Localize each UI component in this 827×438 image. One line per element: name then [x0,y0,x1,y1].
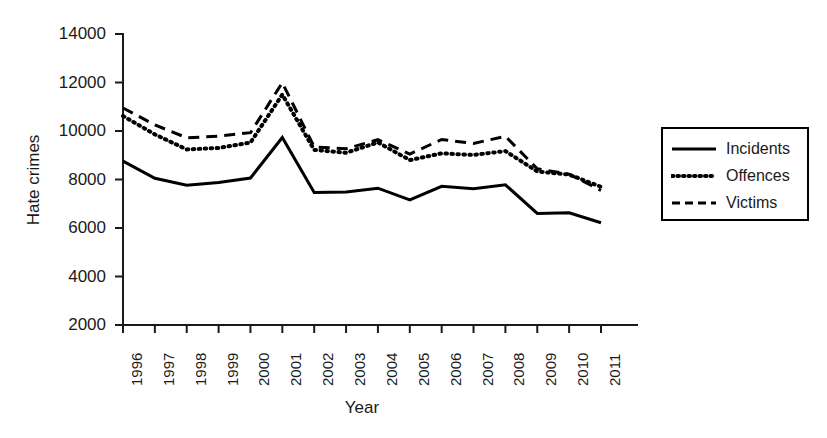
legend-swatch-solid [671,143,717,155]
x-tick-label: 2005 [416,353,431,386]
legend-label: Victims [726,194,777,212]
x-tick-label: 1996 [129,353,144,386]
x-tick-label: 2001 [288,353,303,386]
x-tick-label: 2003 [352,353,367,386]
x-tick-label: 2006 [448,353,463,386]
y-tick-label: 4000 [32,268,106,285]
y-tick-label: 12000 [32,74,106,91]
legend-item-incidents: Incidents [671,136,790,162]
x-tick-label: 2011 [607,354,622,386]
x-tick-label: 2010 [575,353,590,386]
axis-lines [123,33,638,325]
x-tick-label: 2007 [480,353,495,386]
legend-label: Offences [726,167,790,185]
y-axis-title: Hate crimes [24,110,44,250]
hate-crimes-line-chart: 2000400060008000100001200014000 19961997… [0,0,827,438]
y-tick-label: 2000 [32,316,106,333]
x-tick-label: 2009 [543,353,558,386]
x-tick-label: 2000 [256,353,271,386]
series-line-victims [123,83,601,191]
series-line-offences [123,95,601,187]
x-tick-label: 2002 [320,353,335,386]
data-series-group [123,83,601,223]
y-tick-marks [115,34,123,325]
legend-item-victims: Victims [671,190,777,216]
x-tick-label: 1998 [193,353,208,386]
x-tick-label: 2008 [511,353,526,386]
legend-swatch-dashed [671,197,717,209]
legend-swatch-dotted [671,170,717,182]
legend-label: Incidents [726,140,790,158]
chart-legend: IncidentsOffencesVictims [661,127,809,221]
x-tick-label: 1997 [161,353,176,386]
x-axis-title: Year [302,398,422,418]
x-tick-label: 2004 [384,353,399,386]
y-tick-label: 14000 [32,25,106,42]
legend-item-offences: Offences [671,163,790,189]
x-tick-marks [123,325,601,333]
x-tick-label: 1999 [225,353,240,386]
